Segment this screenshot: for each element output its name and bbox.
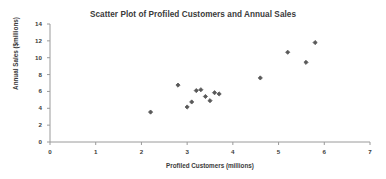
x-axis-tick-label: 4 — [224, 148, 242, 155]
scatter-chart: Scatter Plot of Profiled Customers and A… — [0, 0, 386, 179]
y-axis-tick-label: 14 — [24, 20, 42, 27]
data-point-marker — [258, 76, 262, 80]
y-axis-tick-label: 4 — [24, 104, 42, 111]
x-axis-tick-label: 3 — [178, 148, 196, 155]
data-point-marker — [199, 88, 203, 92]
data-point-marker — [212, 91, 216, 95]
x-axis-tick-label: 6 — [315, 148, 333, 155]
data-point-marker — [176, 83, 180, 87]
data-point-marker — [190, 100, 194, 104]
y-axis-tick-label: 6 — [24, 87, 42, 94]
data-point-marker — [217, 92, 221, 96]
y-axis-tick-label: 8 — [24, 71, 42, 78]
x-axis-tick-label: 2 — [132, 148, 150, 155]
y-axis-tick-label: 0 — [24, 138, 42, 145]
data-point-marker — [304, 60, 308, 64]
data-point-marker — [313, 40, 317, 44]
x-axis-tick-label: 5 — [270, 148, 288, 155]
data-point-marker — [148, 110, 152, 114]
data-point-marker — [185, 105, 189, 109]
y-axis-tick-label: 10 — [24, 54, 42, 61]
y-axis-tick-label: 2 — [24, 121, 42, 128]
x-axis-tick-label: 0 — [41, 148, 59, 155]
x-axis-tick-label: 1 — [87, 148, 105, 155]
data-point-marker — [286, 50, 290, 54]
data-point-marker — [203, 94, 207, 98]
data-point-marker — [194, 88, 198, 92]
y-axis-tick-label: 12 — [24, 37, 42, 44]
x-axis-tick-label: 7 — [361, 148, 379, 155]
data-point-marker — [208, 99, 212, 103]
